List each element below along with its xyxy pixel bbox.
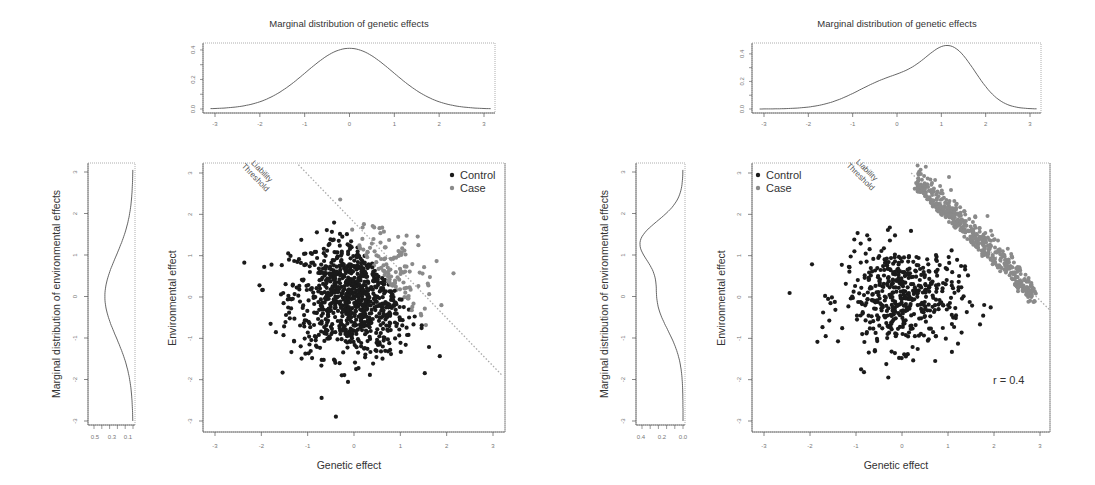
y-tick-label: 0	[736, 295, 742, 299]
legend-marker-case	[450, 186, 454, 190]
y-tick-label: 2	[736, 212, 742, 216]
x-tick-label: -2	[259, 443, 265, 449]
x-tick-label: -3	[761, 443, 767, 449]
legend-label-case: Case	[766, 182, 792, 194]
y-tick-label: 3	[620, 170, 626, 174]
y-tick-label: 0.0	[190, 104, 196, 113]
scatter-plot: -3-2-10123-3-2-10123Genetic effectEnviro…	[166, 155, 505, 471]
density-curve	[760, 46, 1037, 110]
x-tick-label: 0	[348, 121, 352, 127]
y-tick-label: 2	[620, 211, 626, 215]
density-curve	[105, 170, 133, 421]
legend-label-control: Control	[460, 169, 495, 181]
scatter-plot: -3-2-10123-3-2-10123Genetic effectEnviro…	[715, 155, 1050, 471]
legend-marker-case	[756, 186, 760, 190]
side-density-label: Marginal distribution of environmental e…	[50, 190, 62, 398]
y-tick-label: 0.4	[739, 49, 745, 58]
figure: Marginal distribution of genetic effects…	[0, 0, 1095, 485]
threshold-label: LiabilityThreshold	[240, 155, 278, 193]
x-tick-label: 0.0	[679, 434, 688, 440]
x-tick-label: 0.5	[91, 434, 100, 440]
side-density-plot: -3-2-101230.50.30.1Marginal distribution…	[50, 163, 135, 440]
y-tick-label: -3	[187, 418, 193, 424]
y-tick-label: 0.2	[739, 77, 745, 86]
legend-marker-control	[756, 173, 760, 177]
top-density-title: Marginal distribution of genetic effects	[269, 18, 429, 29]
x-tick-label: -1	[302, 121, 308, 127]
y-tick-label: 3	[187, 171, 193, 175]
x-axis-label: Genetic effect	[864, 459, 929, 471]
x-tick-label: 0.1	[124, 434, 133, 440]
panel-left: Marginal distribution of genetic effects…	[50, 18, 505, 471]
y-tick-label: -1	[187, 335, 193, 341]
x-tick-label: 0.3	[108, 434, 117, 440]
x-tick-label: 1	[940, 121, 944, 127]
x-tick-label: 3	[1038, 443, 1042, 449]
x-tick-label: 2	[992, 443, 996, 449]
x-tick-label: -2	[257, 121, 263, 127]
legend-label-case: Case	[460, 182, 486, 194]
top-density-title: Marginal distribution of genetic effects	[817, 18, 977, 29]
x-tick-label: 2	[437, 121, 441, 127]
x-tick-label: 1	[399, 443, 403, 449]
y-tick-label: -2	[187, 376, 193, 382]
side-density-label: Marginal distribution of environmental e…	[598, 190, 610, 398]
legend-label-control: Control	[766, 169, 801, 181]
y-tick-label: -1	[72, 335, 78, 341]
y-tick-label: -2	[620, 376, 626, 382]
y-tick-label: 0.2	[190, 75, 196, 84]
x-tick-label: -3	[212, 121, 218, 127]
y-tick-label: 3	[72, 170, 78, 174]
data-points	[242, 197, 455, 418]
x-tick-label: -1	[305, 443, 311, 449]
y-axis-label: Environmental effect	[166, 250, 178, 346]
y-tick-label: 0	[620, 294, 626, 298]
y-tick-label: -3	[620, 418, 626, 424]
y-tick-label: -1	[736, 335, 742, 341]
x-tick-label: 2	[984, 121, 988, 127]
data-points	[788, 164, 1038, 380]
y-tick-label: -1	[620, 335, 626, 341]
y-tick-label: -3	[72, 418, 78, 424]
y-tick-label: -3	[736, 418, 742, 424]
threshold-label: LiabilityThreshold	[845, 155, 883, 193]
x-tick-label: -2	[807, 443, 813, 449]
x-axis-label: Genetic effect	[317, 459, 382, 471]
legend-marker-control	[450, 173, 454, 177]
top-density-plot: Marginal distribution of genetic effects…	[739, 18, 1041, 127]
panel-right: Marginal distribution of genetic effects…	[598, 18, 1050, 471]
y-tick-label: 3	[736, 171, 742, 175]
y-tick-label: 1	[187, 253, 193, 257]
x-tick-label: 3	[1028, 121, 1032, 127]
y-tick-label: 0	[187, 295, 193, 299]
density-curve	[211, 48, 491, 108]
x-tick-label: 3	[491, 443, 495, 449]
x-tick-label: 1	[393, 121, 397, 127]
y-tick-label: -2	[736, 376, 742, 382]
x-tick-label: 0.4	[637, 434, 646, 440]
x-tick-label: -2	[806, 121, 812, 127]
side-density-plot: -3-2-101230.40.20.0Marginal distribution…	[598, 163, 688, 440]
legend: ControlCase	[756, 169, 802, 194]
density-curve	[640, 170, 683, 421]
y-tick-label: -2	[72, 376, 78, 382]
top-density-plot: Marginal distribution of genetic effects…	[190, 18, 495, 127]
x-tick-label: 0.2	[658, 434, 667, 440]
y-tick-label: 0	[72, 294, 78, 298]
x-tick-label: 1	[946, 443, 950, 449]
y-tick-label: 1	[736, 253, 742, 257]
y-tick-label: 2	[187, 212, 193, 216]
y-tick-label: 2	[72, 211, 78, 215]
x-tick-label: 3	[482, 121, 486, 127]
x-tick-label: -3	[761, 121, 767, 127]
x-tick-label: -1	[850, 121, 856, 127]
x-tick-label: 0	[900, 443, 904, 449]
x-tick-label: -1	[853, 443, 859, 449]
correlation-annotation: r = 0.4	[993, 374, 1025, 386]
y-tick-label: 1	[72, 253, 78, 257]
x-tick-label: 2	[445, 443, 449, 449]
y-axis-label: Environmental effect	[715, 250, 727, 346]
legend: ControlCase	[450, 169, 496, 194]
x-tick-label: 0	[895, 121, 899, 127]
y-tick-label: 0.0	[739, 104, 745, 113]
